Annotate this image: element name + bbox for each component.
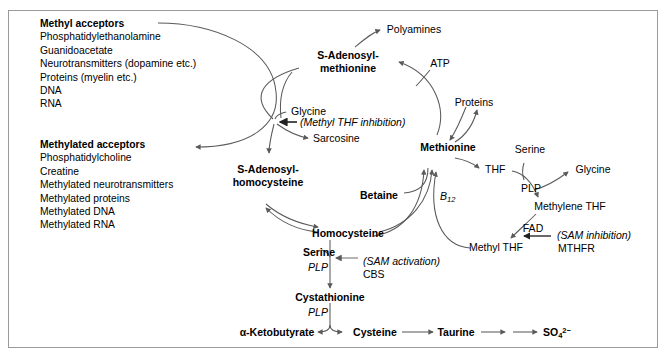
node-sulfate-label: SO bbox=[543, 326, 558, 338]
node-plp-cbs: PLP bbox=[308, 261, 328, 274]
node-betaine: Betaine bbox=[360, 189, 398, 202]
node-b12-label: B bbox=[440, 190, 447, 202]
methylated-acceptors-item: Creatine bbox=[40, 165, 173, 178]
node-b12-subscript: 12 bbox=[447, 195, 455, 204]
methyl-acceptors-item: Guanidoacetate bbox=[40, 44, 196, 57]
methyl-acceptors-item: Proteins (myelin etc.) bbox=[40, 71, 196, 84]
node-homocysteine: Homocysteine bbox=[312, 227, 384, 240]
methyl-acceptors-heading: Methyl acceptors bbox=[40, 17, 196, 30]
pathway-figure: Methyl acceptors Phosphatidylethanolamin… bbox=[0, 0, 668, 362]
node-methyl-thf: Methyl THF bbox=[469, 241, 523, 254]
node-s-adenosylmethionine-line2: methionine bbox=[320, 62, 376, 75]
methylated-acceptors-item: Methylated neurotransmitters bbox=[40, 178, 173, 191]
node-cysteine: Cysteine bbox=[353, 326, 397, 339]
node-cystathionine: Cystathionine bbox=[295, 291, 364, 304]
methyl-acceptors-item: Neurotransmitters (dopamine etc.) bbox=[40, 57, 196, 70]
methylated-acceptors-item: Methylated DNA bbox=[40, 205, 173, 218]
methyl-acceptors-item: DNA bbox=[40, 84, 196, 97]
methylated-acceptors-item: Methylated proteins bbox=[40, 192, 173, 205]
node-taurine: Taurine bbox=[437, 326, 474, 339]
node-sulfate-superscript: 2− bbox=[562, 326, 571, 335]
node-s-adenosylhomocysteine-line1: S-Adenosyl- bbox=[237, 163, 298, 176]
node-mthfr: MTHFR bbox=[558, 242, 595, 255]
node-s-adenosylhomocysteine-line2: homocysteine bbox=[233, 176, 304, 189]
node-serine-left: Serine bbox=[303, 246, 335, 259]
node-glycine-right: Glycine bbox=[575, 163, 610, 176]
node-cbs: CBS bbox=[363, 268, 385, 281]
node-polyamines: Polyamines bbox=[387, 23, 441, 36]
node-thf: THF bbox=[485, 163, 505, 176]
node-fad: FAD bbox=[523, 222, 543, 235]
methylated-acceptors-heading: Methylated acceptors bbox=[40, 138, 173, 151]
node-ketobutyrate: α-Ketobutyrate bbox=[240, 326, 315, 339]
node-plp-cystathionine: PLP bbox=[308, 306, 328, 319]
methylated-acceptors-box: Methylated acceptors Phosphatidylcholine… bbox=[40, 138, 173, 232]
methyl-acceptors-box: Methyl acceptors Phosphatidylethanolamin… bbox=[40, 17, 196, 111]
node-sarcosine: Sarcosine bbox=[313, 132, 360, 145]
node-sulfate: SO42− bbox=[543, 326, 571, 340]
node-plp-right: PLP bbox=[521, 182, 541, 195]
node-serine-right: Serine bbox=[515, 143, 545, 156]
annotation-sam-activation: (SAM activation) bbox=[363, 255, 440, 268]
annotation-methyl-thf-inhibition: (Methyl THF inhibition) bbox=[300, 116, 405, 129]
node-b12: B12 bbox=[440, 190, 455, 204]
methyl-acceptors-item: Phosphatidylethanolamine bbox=[40, 30, 196, 43]
annotation-sam-inhibition: (SAM inhibition) bbox=[557, 229, 631, 242]
node-s-adenosylmethionine-line1: S-Adenosyl- bbox=[317, 49, 378, 62]
methyl-acceptors-item: RNA bbox=[40, 97, 196, 110]
node-proteins: Proteins bbox=[455, 96, 494, 109]
node-atp: ATP bbox=[430, 57, 450, 70]
methylated-acceptors-item: Phosphatidylcholine bbox=[40, 151, 173, 164]
node-methylene-thf: Methylene THF bbox=[534, 200, 606, 213]
methylated-acceptors-item: Methylated RNA bbox=[40, 218, 173, 231]
node-methionine: Methionine bbox=[420, 141, 475, 154]
